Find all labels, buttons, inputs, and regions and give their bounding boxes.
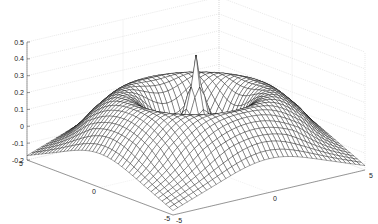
z-tick-label: -0.1 [12,140,24,147]
y-tick-label: -5 [164,215,170,222]
z-tick-label: 0.4 [14,55,24,62]
z-tick-label: 0.5 [14,39,24,46]
z-tick-label: 0.2 [14,89,24,96]
x-tick-label: 5 [369,172,373,179]
z-tick-label: 0.1 [14,106,24,113]
z-tick-label: 0 [20,123,24,130]
surface-plot: -0.2-0.100.10.20.30.40.5-505-505 [0,0,378,224]
z-tick-label: 0.3 [14,72,24,79]
y-tick-label: 5 [19,160,23,167]
mesh-surface [27,55,365,211]
x-tick-label: 0 [273,195,277,202]
x-tick-label: -5 [176,217,182,224]
y-tick-label: 0 [92,188,96,195]
